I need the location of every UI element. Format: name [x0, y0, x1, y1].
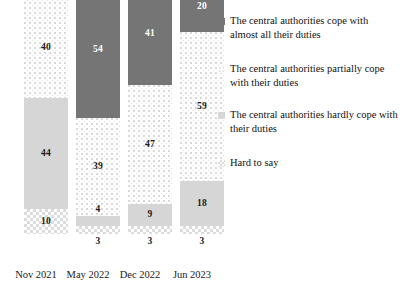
bar-segment-partially-cope[interactable]: 40: [24, 0, 68, 98]
bar-segment-hardly-cope[interactable]: 44: [24, 98, 68, 209]
bar-segment-hard-to-say[interactable]: 3: [76, 226, 120, 234]
legend-item-hardly-cope[interactable]: The central authorities hardly cope with…: [218, 108, 398, 135]
bar-segment-partially-cope[interactable]: 39: [76, 118, 120, 216]
legend-item-cope-almost-all[interactable]: The central authorities cope with almost…: [218, 14, 398, 41]
bar-value-label: 18: [197, 199, 207, 209]
bar-value-label: 40: [41, 43, 51, 53]
bar-segment-hardly-cope[interactable]: 9: [128, 204, 172, 227]
legend-swatch-dotted-white-square-icon: [218, 66, 225, 73]
stacked-bar-chart: 10 44 40 5 3 4 39 54 3 9 47 41: [0, 0, 403, 296]
bar-segment-cope-almost-all[interactable]: 54: [76, 0, 120, 118]
plot-area: 10 44 40 5 3 4 39 54 3 9 47 41: [14, 12, 210, 264]
legend: The central authorities cope with almost…: [218, 14, 398, 189]
bar-value-label: 3: [200, 237, 205, 247]
bar-value-label: 3: [148, 237, 153, 247]
bar-value-label: 54: [93, 45, 103, 55]
legend-swatch-checkerboard-square-icon: [218, 160, 225, 167]
legend-label: The central authorities partially cope w…: [230, 62, 398, 89]
bar-value-label: 44: [41, 149, 51, 159]
legend-item-partially-cope[interactable]: The central authorities partially cope w…: [218, 62, 398, 89]
bar-segment-hard-to-say[interactable]: 3: [128, 226, 172, 234]
bar-segment-cope-almost-all[interactable]: 41: [128, 0, 172, 85]
bar-segment-partially-cope[interactable]: 47: [128, 85, 172, 203]
bar-value-label: 20: [197, 2, 207, 12]
bar-value-label: 41: [145, 29, 155, 39]
x-axis-labels: Nov 2021 May 2022 Dec 2022 Jun 2023: [14, 268, 210, 288]
bar-stack: 10 44 40 5: [24, 0, 68, 234]
legend-label: Hard to say: [230, 156, 278, 170]
bar-column-may-2022[interactable]: 3 4 39 54: [76, 0, 120, 234]
bar-column-dec-2022[interactable]: 3 9 47 41: [128, 0, 172, 234]
bar-value-label: 47: [145, 140, 155, 150]
bar-value-label: 39: [93, 162, 103, 172]
legend-label: The central authorities cope with almost…: [230, 14, 398, 41]
bar-value-label: 59: [197, 102, 207, 112]
legend-swatch-dark-gray-square-icon: [218, 18, 225, 25]
bar-stack: 3 4 39 54: [76, 0, 120, 234]
bar-value-label: 10: [41, 217, 51, 227]
bar-column-nov-2021[interactable]: 10 44 40 5: [24, 0, 68, 234]
bar-stack: 3 9 47 41: [128, 0, 172, 234]
bar-segment-hardly-cope[interactable]: 4: [76, 216, 120, 226]
bar-value-label: 4: [96, 205, 101, 215]
bar-value-label: 3: [96, 237, 101, 247]
x-axis-label-jun-2023: Jun 2023: [160, 268, 224, 282]
bar-value-label: 9: [148, 210, 153, 220]
bar-segment-hard-to-say[interactable]: 10: [24, 209, 68, 234]
bar-segment-hard-to-say[interactable]: 3: [180, 226, 224, 234]
legend-label: The central authorities hardly cope with…: [230, 108, 398, 135]
legend-item-hard-to-say[interactable]: Hard to say: [218, 156, 398, 170]
legend-swatch-light-gray-square-icon: [218, 112, 225, 119]
